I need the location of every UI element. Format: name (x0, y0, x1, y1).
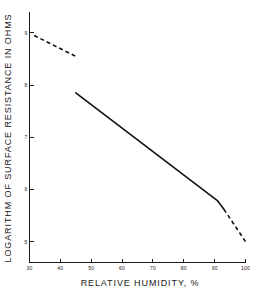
x-tick-label: 100 (241, 265, 250, 271)
y-tick-label: 7 (25, 134, 28, 140)
chart-plot-area: 30405060708090100 98765 RELATIVE HUMIDIT… (0, 0, 261, 293)
x-tick-label: 80 (181, 265, 187, 271)
y-tick-label: 5 (25, 239, 28, 245)
data-line-extrapolated-low-humidity (34, 35, 76, 56)
data-line-measured-surface-resistance (76, 93, 224, 209)
y-tick-label: 9 (25, 30, 28, 36)
data-line-extrapolated-high-humidity (224, 209, 246, 241)
y-tick-label: 8 (25, 82, 28, 88)
x-tick-label: 50 (88, 265, 94, 271)
y-tick-label: 6 (25, 186, 28, 192)
y-axis-title: LOGARITHM OF SURFACE RESISTANCE IN OHMS (3, 14, 13, 263)
x-tick-label: 60 (119, 265, 125, 271)
x-tick-label: 90 (212, 265, 218, 271)
x-tick-group: 30405060708090100 (27, 259, 250, 272)
x-axis-title: RELATIVE HUMIDITY, % (81, 278, 200, 288)
chart-figure: 30405060708090100 98765 RELATIVE HUMIDIT… (0, 0, 261, 293)
data-series-group (34, 35, 245, 241)
x-tick-label: 70 (150, 265, 156, 271)
x-tick-label: 40 (57, 265, 63, 271)
x-tick-label: 30 (27, 265, 33, 271)
